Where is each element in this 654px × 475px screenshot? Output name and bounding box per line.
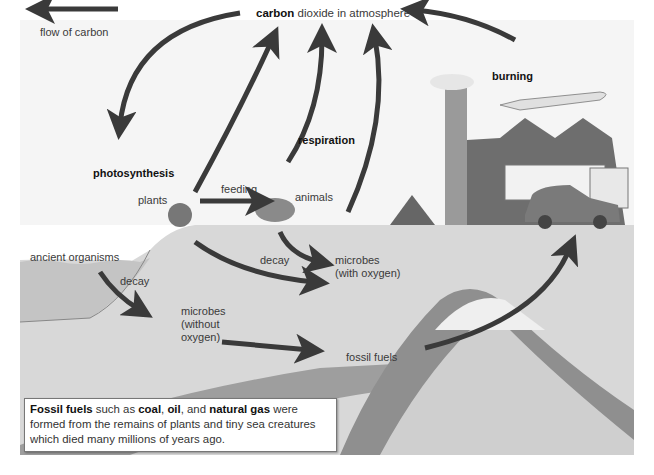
photosynthesis-label: photosynthesis — [93, 167, 174, 180]
legend-label: flow of carbon — [40, 26, 108, 39]
rabbit — [255, 198, 295, 222]
feeding-label: feeding — [221, 183, 257, 196]
ancient-organisms-label: ancient organisms — [30, 251, 119, 264]
carbon-cycle-diagram: flow of carbon carbon dioxide in atmosph… — [0, 0, 654, 475]
burning-label: burning — [492, 70, 533, 83]
microbes-without-oxygen-label-3: oxygen) — [181, 331, 220, 344]
decay-label-ancient: decay — [120, 275, 149, 288]
chimney — [445, 85, 467, 225]
microbes-with-oxygen-label: microbes — [335, 254, 380, 267]
respiration-label: respiration — [298, 134, 355, 147]
microbes-without-oxygen-label-2: (without — [181, 318, 220, 331]
atmosphere-label: carbon dioxide in atmosphere — [256, 7, 410, 20]
microbes-with-oxygen-label-2: (with oxygen) — [335, 267, 400, 280]
fossil-fuels-callout: Fossil fuels such as coal, oil, and natu… — [24, 398, 337, 452]
decay-label-surface: decay — [260, 254, 289, 267]
plant — [168, 203, 192, 227]
plants-label: plants — [138, 194, 167, 207]
fossil-fuels-label: fossil fuels — [346, 351, 397, 364]
animals-label: animals — [295, 191, 333, 204]
microbes-without-oxygen-label: microbes — [181, 305, 226, 318]
